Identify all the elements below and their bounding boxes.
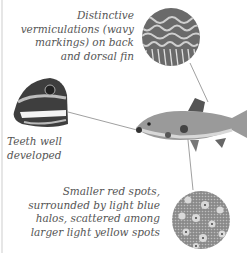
caption-teeth: Teeth well developed [7,135,62,162]
caption-line: Teeth well [7,135,62,149]
caption-line: vermiculations (wavy [4,23,134,37]
head-closeup-icon [10,76,70,132]
caption-line: developed [7,149,62,163]
caption-vermiculations: Distinctive vermiculations (wavy marking… [4,9,134,63]
caption-line: Distinctive [4,9,134,23]
caption-spots: Smaller red spots, surrounded by light b… [0,185,160,239]
leader-line-teeth [68,112,137,130]
leader-line-vermiculation [190,63,208,102]
caption-line: Smaller red spots, [0,185,160,199]
caption-line: halos, scattered among [0,212,160,226]
vermiculation-closeup-icon [140,6,202,68]
caption-line: surrounded by light blue [0,199,160,213]
caption-line: and dorsal fin [4,50,134,64]
caption-line: larger light yellow spots [0,226,160,240]
trout-body-icon [136,98,247,152]
caption-line: markings) on back [4,36,134,50]
spots-closeup-icon [170,190,232,252]
